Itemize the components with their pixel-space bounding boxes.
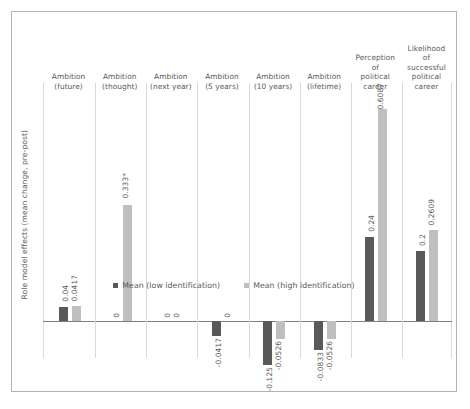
bar-value-label-low-2: 0 [163,313,172,318]
bar-group-1: 00.333* [95,83,146,358]
bar-slot-high: -0.0526 [325,83,351,358]
bar-value-label-high-3: 0 [223,313,232,318]
bar-value-label-low-1: 0 [112,313,121,318]
bar-low-4[interactable] [263,321,272,365]
bar-slot-high: 0.6087 [376,83,402,358]
bar-value-label-high-6: 0.6087 [376,83,385,109]
chart-figure: Ambition(future)Ambition(thought)Ambitio… [11,11,457,392]
bar-slot-high: 0.333* [121,83,147,358]
plot-area: 0.040.041700.333*00-0.04170-0.125-0.0526… [43,83,452,358]
category-axis-labels: Ambition(future)Ambition(thought)Ambitio… [43,21,452,91]
bar-value-label-high-4: -0.0526 [274,341,283,370]
chart-legend: Mean (low identification)Mean (high iden… [12,275,456,295]
bar-group-5: -0.0833-0.0526 [300,83,351,358]
bar-slot-low: 0 [95,83,121,358]
category-label-2: Ambition(next year) [145,21,196,91]
bar-slot-high: 0 [223,83,249,358]
legend-item-0[interactable]: Mean (low identification) [113,281,220,290]
legend-swatch-icon [244,283,249,288]
bar-group-6: 0.240.6087 [351,83,402,358]
bar-slot-low: 0.04 [44,83,70,358]
bar-group-3: -0.04170 [197,83,248,358]
category-label-5: Ambition(lifetime) [299,21,350,91]
bar-slot-high: 0.0417 [70,83,96,358]
category-label-7: Likelihoodofsuccessfulpoliticalcareer [401,21,452,91]
bar-slot-low: 0 [146,83,172,358]
bar-value-label-high-2: 0 [172,313,181,318]
bar-value-label-high-5: -0.0526 [325,341,334,370]
bar-low-0[interactable] [59,307,68,321]
bar-high-1[interactable] [123,205,132,321]
bar-value-label-low-3: -0.0417 [214,338,223,367]
bar-value-label-low-5: -0.0833 [316,352,325,381]
bar-value-label-high-1: 0.333* [121,173,130,198]
bar-low-5[interactable] [314,321,323,350]
legend-label: Mean (low identification) [122,281,220,290]
bar-slot-low: 0.2 [402,83,428,358]
bar-value-label-low-7: 0.2 [418,234,427,246]
bar-slot-high: 0.2609 [427,83,453,358]
bar-group-0: 0.040.0417 [44,83,95,358]
bar-low-3[interactable] [212,321,221,336]
bar-slot-low: -0.125 [249,83,275,358]
bar-slot-low: -0.0417 [197,83,223,358]
category-label-3: Ambition(5 years) [196,21,247,91]
category-label-6: Perceptionofpoliticalcareer [350,21,401,91]
bar-value-label-low-6: 0.24 [367,215,376,232]
bar-high-0[interactable] [72,306,81,321]
bar-group-2: 00 [146,83,197,358]
bar-high-4[interactable] [276,321,285,339]
y-axis-title: Role model effects (mean change, pre-pos… [20,130,32,299]
legend-item-1[interactable]: Mean (high identification) [244,281,355,290]
bar-slot-high: 0 [172,83,198,358]
bar-slot-high: -0.0526 [274,83,300,358]
legend-swatch-icon [113,283,118,288]
bar-group-7: 0.20.2609 [402,83,453,358]
bar-slot-low: 0.24 [351,83,377,358]
category-label-0: Ambition(future) [43,21,94,91]
bar-value-label-high-7: 0.2609 [427,199,436,225]
bar-high-5[interactable] [327,321,336,339]
bar-slot-low: -0.0833 [300,83,326,358]
bar-value-label-low-4: -0.125 [265,367,274,391]
bar-group-4: -0.125-0.0526 [249,83,300,358]
legend-label: Mean (high identification) [253,281,355,290]
category-label-1: Ambition(thought) [94,21,145,91]
category-label-4: Ambition(10 years) [248,21,299,91]
